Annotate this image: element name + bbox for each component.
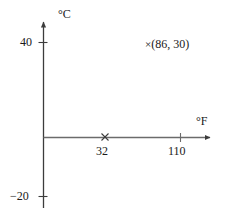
data-point-annotation: ×(86, 30) bbox=[145, 38, 189, 50]
x-tick-label-110: 110 bbox=[168, 145, 186, 157]
y-tick-label-40: 40 bbox=[20, 36, 32, 48]
temperature-conversion-graph: °C °F 40 −20 32 110 ×(86, 30) bbox=[0, 0, 230, 224]
data-point-coordinates: (86, 30) bbox=[151, 37, 189, 51]
y-axis-label: °C bbox=[58, 8, 71, 20]
y-tick-label-neg20: −20 bbox=[10, 190, 29, 202]
x-axis-label: °F bbox=[196, 115, 207, 127]
axes-drawing bbox=[0, 0, 230, 224]
x-tick-label-32: 32 bbox=[96, 145, 108, 157]
